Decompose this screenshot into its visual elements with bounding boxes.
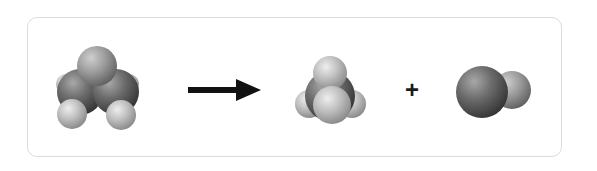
reaction-scene	[0, 0, 597, 171]
reaction-arrow-icon	[188, 79, 261, 101]
plus-operator: +	[400, 76, 424, 104]
reactant-molecule	[56, 46, 139, 130]
product-molecule-tetrahedral	[295, 56, 366, 124]
product-molecule-diatomic	[456, 66, 531, 118]
